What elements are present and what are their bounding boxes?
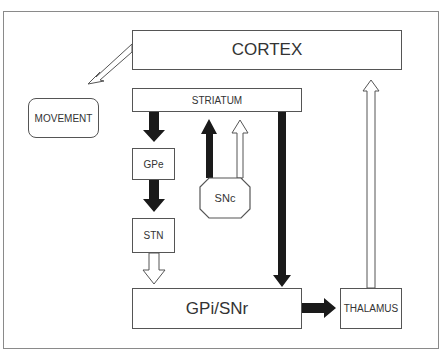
node-movement: MOVEMENT <box>28 98 99 138</box>
arrow-snc-to-striatum-filled <box>201 119 217 185</box>
node-gpi-snr-label: GPi/SNr <box>186 299 248 319</box>
node-cortex: CORTEX <box>132 30 402 70</box>
node-snc: SNc <box>199 177 251 219</box>
node-gpe-label: GPe <box>143 159 163 170</box>
arrow-gpe-to-stn <box>143 180 165 212</box>
node-snc-label: SNc <box>215 192 236 204</box>
arrow-stn-to-gpi <box>143 253 165 284</box>
node-striatum-label: STRIATUM <box>192 95 242 106</box>
node-thalamus: THALAMUS <box>340 288 402 329</box>
arrow-striatum-to-gpi <box>273 112 291 287</box>
node-gpe: GPe <box>132 148 175 180</box>
arrow-striatum-to-gpe <box>143 112 165 142</box>
node-striatum: STRIATUM <box>132 88 302 112</box>
arrow-thalamus-to-cortex <box>363 80 379 288</box>
arrow-gpi-to-thalamus <box>302 298 336 318</box>
arrow-snc-to-striatum-open <box>232 120 248 178</box>
node-movement-label: MOVEMENT <box>35 113 93 124</box>
node-cortex-label: CORTEX <box>232 40 303 60</box>
node-gpi-snr: GPi/SNr <box>132 288 302 329</box>
node-thalamus-label: THALAMUS <box>344 303 398 314</box>
arrow-cortex-to-movement <box>88 44 132 84</box>
node-stn-label: STN <box>144 230 164 241</box>
node-stn: STN <box>132 218 175 253</box>
